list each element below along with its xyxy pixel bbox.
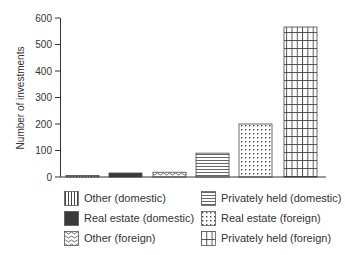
y-tick-label: 400: [35, 66, 52, 77]
legend-swatch-vertical-lines-icon: [64, 191, 79, 206]
legend-item: Privately held (domestic): [201, 190, 341, 206]
y-tick-label: 100: [35, 145, 52, 156]
legend-label: Privately held (domestic): [221, 192, 341, 204]
y-tick-label: 600: [35, 13, 52, 24]
y-axis: 0100200300400500600: [35, 13, 60, 183]
legend-label: Privately held (foreign): [221, 232, 331, 244]
legend-label: Real estate (domestic): [84, 212, 194, 224]
y-tick-label: 500: [35, 39, 52, 50]
legend-item: Other (foreign): [64, 230, 156, 246]
legend-swatch-horizontal-lines-icon: [201, 191, 216, 206]
bar-real-estate-foreign: [239, 124, 272, 177]
y-axis-title: Number of investments: [15, 47, 26, 150]
bar-real-estate-domestic: [109, 173, 142, 177]
legend-item: Other (domestic): [64, 190, 166, 206]
legend-label: Real estate (foreign): [221, 212, 321, 224]
legend-swatch-waves-icon: [64, 231, 79, 246]
legend-label: Other (domestic): [84, 192, 166, 204]
legend-item: Real estate (foreign): [201, 210, 321, 226]
legend-item: Real estate (domestic): [64, 210, 194, 226]
bars: [66, 27, 317, 177]
bar-other-foreign: [153, 172, 186, 177]
y-tick-label: 300: [35, 92, 52, 103]
y-tick-label: 0: [46, 172, 52, 183]
legend-item: Privately held (foreign): [201, 230, 331, 246]
bar-privately-held-domestic: [196, 153, 229, 177]
y-tick-label: 200: [35, 119, 52, 130]
bar-privately-held-foreign: [284, 27, 317, 177]
legend-swatch-dots-icon: [201, 211, 216, 226]
legend-swatch-solid-dark-icon: [64, 211, 79, 226]
legend-label: Other (foreign): [84, 232, 156, 244]
bar-chart: 0100200300400500600 Number of investment…: [0, 0, 345, 190]
legend-swatch-grid-icon: [201, 231, 216, 246]
